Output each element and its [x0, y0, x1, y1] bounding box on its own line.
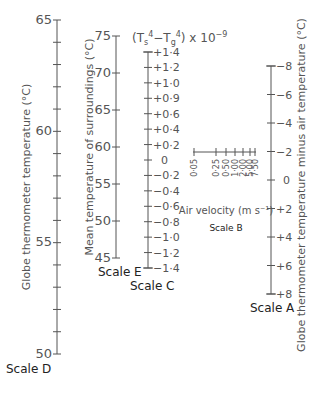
scale-c-labels: +1·4+1·2+1·0+0·9+0·6+0·4+0·20−0·2−0·4−0·… [153, 46, 180, 275]
scale-c-label: −0·6 [153, 200, 180, 213]
scale-d: 65 60 55 50 Globe thermometer temperatur… [6, 12, 61, 376]
scale-a-label: +8 [276, 288, 292, 301]
scale-d-label: 65 [35, 12, 52, 27]
scale-c-label: +1·4 [153, 46, 180, 59]
scale-c-label: −1·0 [153, 231, 180, 244]
scale-c-label: −0·2 [153, 169, 180, 182]
scale-b-label: 0·25 [212, 159, 221, 177]
scale-c-label: +0·2 [153, 139, 180, 152]
scale-a-label: +6 [276, 260, 292, 273]
scale-e-label: 70 [94, 65, 111, 80]
scale-c-label: +0·6 [153, 108, 180, 121]
scale-a-title: Globe thermometer temperature minus air … [295, 18, 308, 352]
scale-a-label: 0 [283, 174, 290, 187]
formula-label: (Ts4−Tg4) x 10−9 [132, 30, 227, 47]
scale-b-title: Air velocity (m s⁻¹) [179, 205, 273, 216]
scale-b-label: 0·05 [190, 159, 199, 177]
scale-e-name: Scale E [98, 265, 142, 279]
scale-c-label: −0·4 [153, 185, 180, 198]
scale-c-name: Scale C [130, 279, 174, 293]
scale-b-labels: 0·050·250·501·002·005·007·50 [190, 159, 260, 177]
scale-e-label: 65 [94, 102, 111, 117]
scale-a-labels: −8−6−4−20+2+4+6+8 [276, 60, 292, 301]
nomogram: 65 60 55 50 Globe thermometer temperatur… [0, 0, 332, 415]
scale-e-label: 45 [94, 250, 111, 265]
scale-b-name: Scale B [209, 223, 242, 233]
scale-c-label: +0·9 [153, 92, 180, 105]
scale-b-label: 0·50 [222, 159, 231, 177]
scale-c-label: −1·4 [153, 262, 180, 275]
scale-e-title: Mean temperature of surroundings (°C) [83, 38, 96, 255]
scale-e-label: 75 [94, 28, 111, 43]
scale-a: −8−6−4−20+2+4+6+8 Globe thermometer temp… [250, 18, 308, 352]
scale-b: 0·050·250·501·002·005·007·50 Air velocit… [179, 148, 273, 233]
scale-a-label: −6 [276, 89, 292, 102]
scale-a-label: +2 [276, 203, 292, 216]
scale-c-label: +0·4 [153, 123, 180, 136]
scale-e: 75 70 65 60 55 50 45 Mean temperature of… [83, 28, 142, 279]
scale-a-label: +4 [276, 231, 292, 244]
scale-e-label: 55 [94, 176, 111, 191]
scale-c: +1·4+1·2+1·0+0·9+0·6+0·4+0·20−0·2−0·4−0·… [130, 46, 180, 293]
scale-c-label: −1·2 [153, 247, 180, 260]
scale-c-label: 0 [161, 154, 168, 167]
scale-a-label: −2 [276, 146, 292, 159]
scale-c-label: −0·8 [153, 216, 180, 229]
scale-d-label: 55 [35, 234, 52, 249]
scale-d-title: Globe thermometer temperature (°C) [20, 84, 33, 290]
scale-b-label: 7·50 [251, 159, 260, 177]
scale-e-label: 60 [94, 139, 111, 154]
scale-d-label: 50 [35, 346, 52, 361]
scale-d-label: 60 [35, 123, 52, 138]
scale-c-label: +1·0 [153, 77, 180, 90]
scale-a-name: Scale A [250, 301, 295, 315]
scale-a-label: −8 [276, 60, 292, 73]
scale-d-name: Scale D [6, 362, 51, 376]
scale-e-label: 50 [94, 213, 111, 228]
scale-a-label: −4 [276, 117, 292, 130]
scale-c-label: +1·2 [153, 61, 180, 74]
